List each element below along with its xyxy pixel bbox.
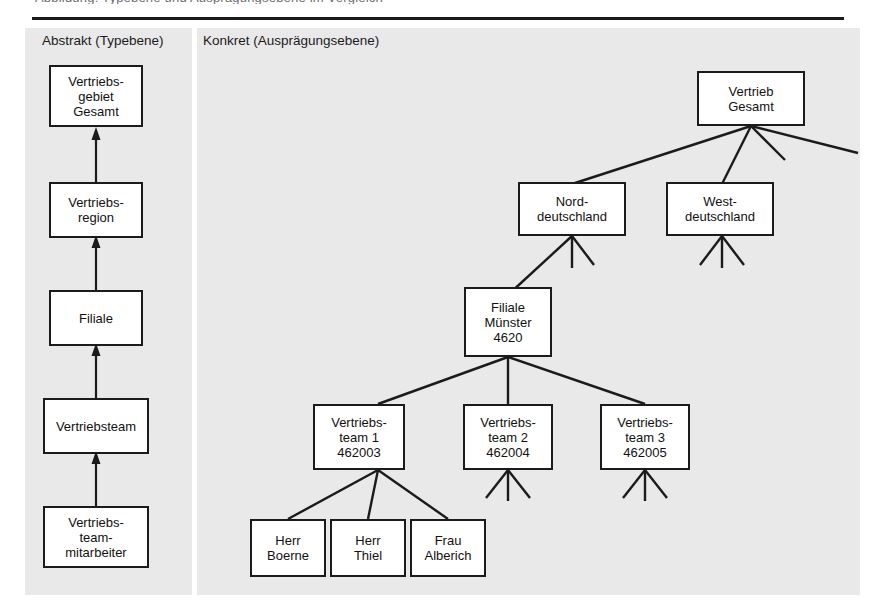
node-line: Vertriebs- xyxy=(68,195,124,210)
node-line: Vertriebs- xyxy=(68,74,124,89)
node-line: Vertriebs- xyxy=(68,515,124,530)
node-line: 462005 xyxy=(623,445,666,460)
node-line: Vertriebs- xyxy=(617,415,673,430)
node-line: team 2 xyxy=(488,430,528,445)
edges-filiale-muenster xyxy=(378,357,645,404)
node-frau-alberich[interactable]: Frau Alberich xyxy=(410,519,486,577)
node-vertriebsteammitarbeiter[interactable]: Vertriebs- team- mitarbeiter xyxy=(43,506,149,568)
edges-vertriebsteam-2 xyxy=(486,470,530,501)
node-line: Nord- xyxy=(556,194,589,209)
node-line: Gesamt xyxy=(73,104,119,119)
node-line: Boerne xyxy=(267,548,309,563)
edges-norddeutschland xyxy=(509,236,594,294)
node-line: Alberich xyxy=(425,548,472,563)
node-line: Frau xyxy=(435,533,462,548)
edges-westdeutschland xyxy=(700,236,744,268)
node-norddeutschland[interactable]: Nord- deutschland xyxy=(518,182,626,236)
edges-vertriebsteam-1 xyxy=(288,470,448,519)
node-line: Thiel xyxy=(354,548,382,563)
node-line: deutschland xyxy=(685,209,755,224)
node-herr-thiel[interactable]: Herr Thiel xyxy=(330,519,406,577)
node-line: gebiet xyxy=(78,89,113,104)
node-line: West- xyxy=(703,194,737,209)
node-filiale[interactable]: Filiale xyxy=(49,290,143,346)
node-westdeutschland[interactable]: West- deutschland xyxy=(666,182,774,236)
node-vertriebsgebiet[interactable]: Vertriebs- gebiet Gesamt xyxy=(49,65,143,127)
node-herr-boerne[interactable]: Herr Boerne xyxy=(250,519,326,577)
node-line: Vertriebsteam xyxy=(56,419,136,434)
node-filiale-muenster[interactable]: Filiale Münster 4620 xyxy=(464,287,552,357)
edges-vertrieb-gesamt xyxy=(572,126,858,184)
node-line: Filiale xyxy=(79,311,113,326)
node-line: team 3 xyxy=(625,430,665,445)
node-line: deutschland xyxy=(537,209,607,224)
node-line: Münster xyxy=(485,315,532,330)
node-line: mitarbeiter xyxy=(65,545,126,560)
node-line: Filiale xyxy=(491,300,525,315)
node-line: Gesamt xyxy=(728,99,774,114)
node-vertriebsteam[interactable]: Vertriebsteam xyxy=(43,398,149,454)
node-line: 462004 xyxy=(486,445,529,460)
node-line: Vertriebs- xyxy=(331,415,387,430)
node-line: Vertrieb xyxy=(729,84,774,99)
edges-vertriebsteam-3 xyxy=(623,470,667,501)
node-vertriebsregion[interactable]: Vertriebs- region xyxy=(49,182,143,238)
node-line: Herr xyxy=(355,533,380,548)
node-line: 4620 xyxy=(494,330,523,345)
node-line: team- xyxy=(79,530,112,545)
node-line: Herr xyxy=(275,533,300,548)
node-vertrieb-gesamt[interactable]: Vertrieb Gesamt xyxy=(697,71,805,126)
node-line: region xyxy=(78,210,114,225)
node-vertriebsteam-2[interactable]: Vertriebs- team 2 462004 xyxy=(463,404,553,470)
node-line: team 1 xyxy=(339,430,379,445)
node-vertriebsteam-3[interactable]: Vertriebs- team 3 462005 xyxy=(600,404,690,470)
figure-canvas: Abbildung: Typebene und Ausprägungsebene… xyxy=(0,0,878,610)
node-vertriebsteam-1[interactable]: Vertriebs- team 1 462003 xyxy=(313,404,405,470)
node-line: 462003 xyxy=(337,445,380,460)
node-line: Vertriebs- xyxy=(480,415,536,430)
